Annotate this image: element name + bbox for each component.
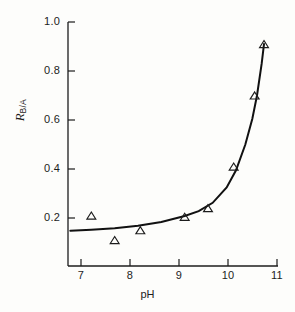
figure-panel: 1.0 0.8 0.6 0.4 0.2 7 8 9 10 11 pH RB/A [0,0,295,312]
y-tick-label-0-8: 0.8 [26,64,60,76]
y-tick-label-0-4: 0.4 [26,162,60,174]
y-tick-label-0-2: 0.2 [26,211,60,223]
x-tick-label-10: 10 [216,269,240,281]
y-axis-title-symbol: R [12,113,27,121]
x-tick-label-11: 11 [265,269,289,281]
y-tick-label-0-6: 0.6 [26,113,60,125]
fitted-curve [70,44,264,231]
x-tick-label-9: 9 [167,269,191,281]
y-tick-label-1-0: 1.0 [26,15,60,27]
chart-plot-area [0,0,295,312]
data-point [87,212,96,219]
data-point [110,237,119,244]
data-point [136,227,145,234]
y-axis-ticks [68,22,75,218]
x-axis-ticks [81,259,277,266]
y-axis-title-subscript: B/A [18,99,28,113]
x-axis-title: pH [0,288,295,300]
data-point-markers [87,41,268,244]
y-axis-title: RB/A [12,82,28,138]
x-tick-label-7: 7 [69,269,93,281]
x-tick-label-8: 8 [118,269,142,281]
